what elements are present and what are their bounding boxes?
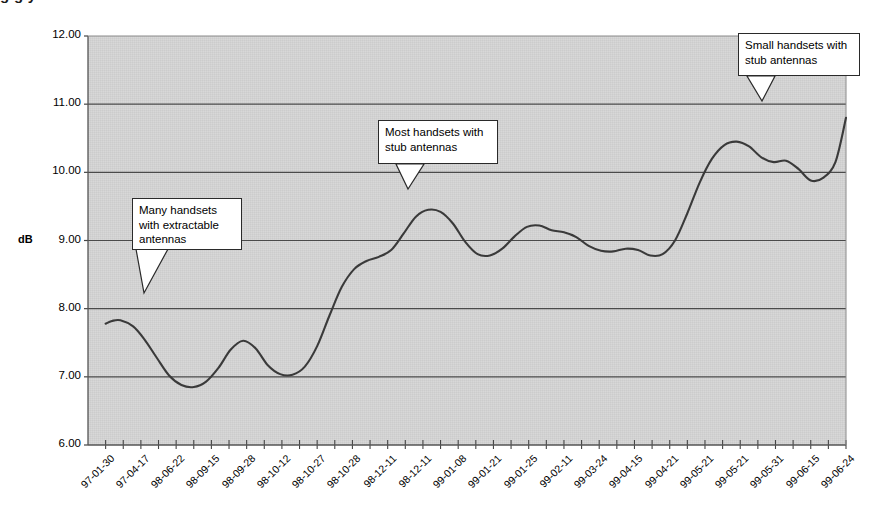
plot-area (0, 0, 886, 515)
y-tick-label: 6.00 (37, 437, 81, 449)
annotation-small-handsets[interactable]: Small handsets withstub antennas (738, 33, 860, 76)
annotation-line: Most handsets with (385, 125, 491, 140)
annotation-line: stub antennas (745, 53, 853, 68)
y-tick-label: 8.00 (37, 301, 81, 313)
annotation-many-handsets[interactable]: Many handsetswith extractableantennas (132, 198, 242, 250)
annotation-line: Small handsets with (745, 38, 853, 53)
y-tick-label: 12.00 (37, 28, 81, 40)
annotation-line: stub antennas (385, 140, 491, 155)
annotation-line: with extractable (139, 218, 235, 233)
annotation-line: antennas (139, 232, 235, 247)
y-tick-label: 7.00 (37, 369, 81, 381)
annotation-line: Many handsets (139, 203, 235, 218)
y-tick-label: 9.00 (37, 233, 81, 245)
chart-figure: g g y dB 6.007.008.009.0010.0011.0012.00… (0, 0, 886, 515)
y-tick-label: 11.00 (37, 96, 81, 108)
y-tick-label: 10.00 (37, 164, 81, 176)
annotation-most-handsets[interactable]: Most handsets withstub antennas (378, 120, 498, 164)
